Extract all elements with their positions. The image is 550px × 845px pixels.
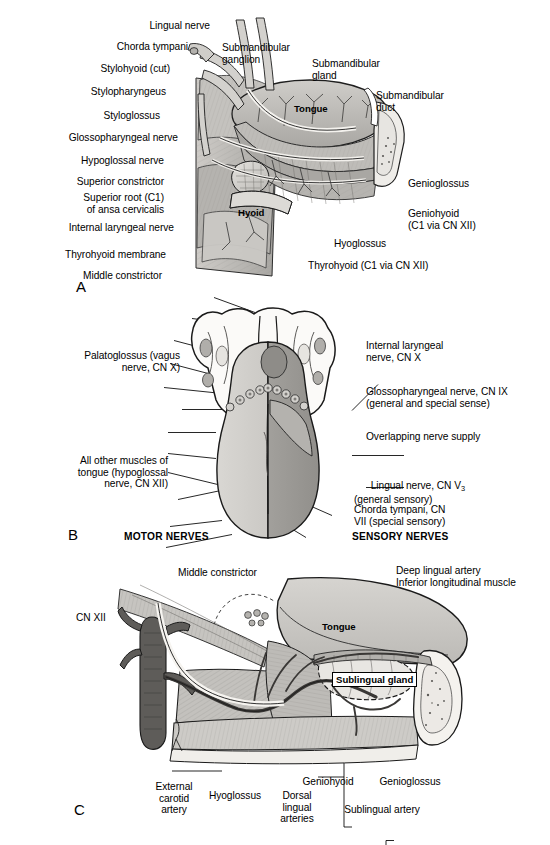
label-genioglossus: Genioglossus <box>408 178 469 190</box>
panel-c-artwork <box>118 573 508 783</box>
label-lingual-nerve: Lingual nerve <box>0 20 210 32</box>
label-overlapping-nerve-supply: Overlapping nerve supply <box>366 431 480 443</box>
superior-root-line2: of ansa cervicalis <box>87 204 164 215</box>
label-inferior-longitudinal-muscle: Inferior longitudinal muscle <box>396 577 516 589</box>
label-submandibular-duct: Submandibularduct <box>376 90 444 113</box>
subm-gland-line1: Submandibular <box>312 58 380 69</box>
all-other-line1: All other muscles of <box>80 455 168 466</box>
lingual-nerve-b-line1: Lingual nerve, CN V3 <box>371 480 465 491</box>
dla-line1: Dorsal <box>282 790 311 801</box>
eca-line3: artery <box>161 804 187 815</box>
label-glossopharyngeal-nerve-b: Glossopharyngeal nerve, CN IX(general an… <box>366 386 508 409</box>
label-thyrohyoid-membrane: Thyrohyoid membrane <box>0 249 166 261</box>
label-hyoglossus: Hyoglossus <box>334 238 386 250</box>
geniohyoid-line1: Geniohyoid <box>408 208 459 219</box>
panel-b: Palatoglossus (vagusnerve, CN X) All oth… <box>0 300 550 555</box>
subm-ganglion-line1: Submandibular <box>222 42 290 53</box>
label-hyoglossus-c: Hyoglossus <box>204 790 266 802</box>
label-middle-constrictor-c: Middle constrictor <box>178 567 257 579</box>
label-glossopharyngeal-nerve: Glossopharyngeal nerve <box>0 132 178 144</box>
label-stylopharyngeus: Stylopharyngeus <box>0 86 166 98</box>
label-deep-lingual-artery: Deep lingual artery <box>396 565 481 577</box>
label-chorda-tympani: Chorda tympani <box>0 41 188 53</box>
eca-line1: External <box>156 781 193 792</box>
panel-c-sublingual-gland-label: Sublingual gland <box>332 672 417 687</box>
label-cn-xii: CN XII <box>76 612 106 624</box>
gpn-line2: (general and special sense) <box>366 398 490 409</box>
label-submandibular-gland: Submandibulargland <box>312 58 380 81</box>
geniohyoid-line2: (C1 via CN XII) <box>408 220 476 231</box>
all-other-line3: nerve, CN XII) <box>104 478 168 489</box>
panel-a-hyoid-label: Hyoid <box>238 207 264 219</box>
panel-b-artwork <box>178 304 368 544</box>
lingual-nerve-b-pre: Lingual nerve, CN V <box>371 480 461 491</box>
all-other-line2: tongue (hypoglossal <box>78 467 168 478</box>
label-genioglossus-c: Genioglossus <box>372 776 448 788</box>
subm-duct-line1: Submandibular <box>376 90 444 101</box>
panel-b-letter: B <box>68 526 78 543</box>
caption-motor-nerves: MOTOR NERVES <box>124 531 209 542</box>
gpn-line1: Glossopharyngeal nerve, CN IX <box>366 386 508 397</box>
label-geniohyoid: Geniohyoid(C1 via CN XII) <box>408 208 476 231</box>
chorda-b-line2: VII (special sensory) <box>354 516 445 527</box>
label-palatoglossus: Palatoglossus (vagusnerve, CN X) <box>0 350 180 373</box>
label-thyrohyoid: Thyrohyoid (C1 via CN XII) <box>308 260 428 272</box>
label-stylohyoid-cut: Stylohyoid (cut) <box>0 63 170 75</box>
subm-duct-line2: duct <box>376 102 395 113</box>
panel-c-tongue-label: Tongue <box>322 621 356 633</box>
label-internal-laryngeal-nerve-b: Internal laryngealnerve, CN X <box>366 340 443 363</box>
label-internal-laryngeal-nerve: Internal laryngeal nerve <box>0 222 174 234</box>
chorda-b-line1: Chorda tympani, CN <box>354 504 445 515</box>
palatoglossus-line1: Palatoglossus (vagus <box>84 350 180 361</box>
panel-a: Tongue Hyoid Lingual nerve Chorda tympan… <box>0 0 550 300</box>
label-all-other-muscles: All other muscles oftongue (hypoglossaln… <box>0 455 168 490</box>
dla-line2: lingual <box>282 802 311 813</box>
panel-a-letter: A <box>76 278 86 295</box>
label-chorda-tympani-b: Chorda tympani, CNVII (special sensory) <box>354 504 445 527</box>
superior-root-line1: Superior root (C1) <box>83 192 164 203</box>
panel-c: Tongue Sublingual gland Middle constrict… <box>0 555 550 845</box>
panel-c-letter: C <box>74 801 85 818</box>
palatoglossus-line2: nerve, CN X) <box>122 362 180 373</box>
label-external-carotid-artery: Externalcarotidartery <box>140 781 208 816</box>
lingual-nerve-b-sub: 3 <box>461 483 465 492</box>
iln-line1: Internal laryngeal <box>366 340 443 351</box>
label-superior-root-c1: Superior root (C1)of ansa cervicalis <box>0 192 164 215</box>
caption-sensory-nerves: SENSORY NERVES <box>352 531 449 542</box>
label-hypoglossal-nerve: Hypoglossal nerve <box>0 155 164 167</box>
label-dorsal-lingual-arteries: Dorsallingualarteries <box>268 790 326 825</box>
subm-ganglion-line2: ganglion <box>222 54 260 65</box>
label-superior-constrictor: Superior constrictor <box>0 176 164 188</box>
figure-plate: Tongue Hyoid Lingual nerve Chorda tympan… <box>0 0 550 845</box>
label-styloglossus: Styloglossus <box>0 110 160 122</box>
subm-gland-line2: gland <box>312 70 337 81</box>
label-submandibular-ganglion: Submandibularganglion <box>222 42 290 65</box>
dla-line3: arteries <box>280 813 314 824</box>
label-sublingual-artery: Sublingual artery <box>336 804 428 816</box>
iln-line2: nerve, CN X <box>366 352 421 363</box>
panel-a-tongue-label: Tongue <box>294 103 328 115</box>
label-geniohyoid-c: Geniohyoid <box>298 776 358 788</box>
eca-line2: carotid <box>159 793 189 804</box>
